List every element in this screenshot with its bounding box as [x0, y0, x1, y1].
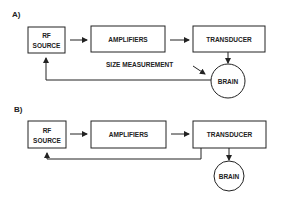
rf-source-box-a	[28, 27, 65, 53]
rf-source-label-a-1: RF	[42, 32, 51, 39]
diagram-a-label: A)	[12, 10, 21, 19]
transducer-label-a: TRANSDUCER	[206, 36, 252, 43]
diagram-root: A) RF SOURCE AMPLIFIERS TRANSDUCER BRAIN…	[0, 0, 284, 205]
size-measurement-label: SIZE MEASUREMENT	[106, 61, 173, 68]
diagram-a: A) RF SOURCE AMPLIFIERS TRANSDUCER BRAIN…	[12, 10, 265, 98]
arrow-size-measurement	[193, 66, 205, 74]
feedback-line-b	[47, 148, 201, 159]
transducer-label-b: TRANSDUCER	[207, 131, 253, 138]
amplifiers-label-a: AMPLIFIERS	[108, 36, 148, 43]
diagram-b: B) RF SOURCE AMPLIFIERS TRANSDUCER BRAIN	[14, 105, 266, 191]
diagram-b-label: B)	[14, 105, 23, 114]
rf-source-label-b-1: RF	[43, 127, 52, 134]
brain-label-b: BRAIN	[219, 173, 240, 180]
amplifiers-label-b: AMPLIFIERS	[109, 131, 149, 138]
brain-label-a: BRAIN	[218, 78, 239, 85]
rf-source-label-a-2: SOURCE	[33, 42, 61, 49]
rf-source-label-b-2: SOURCE	[33, 137, 61, 144]
